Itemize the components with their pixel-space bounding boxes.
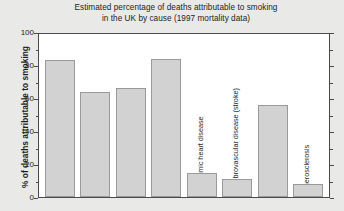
y-tick-minor-mark bbox=[330, 182, 333, 183]
y-tick-mark bbox=[330, 66, 334, 67]
y-tick-label: 100 bbox=[8, 28, 34, 37]
bar-slot: Aortic aneurysm bbox=[258, 34, 288, 197]
bar-slot: Cerebrovascular disease (stroke) bbox=[222, 34, 252, 197]
chart-title-line-1: Estimated percentage of deaths attributa… bbox=[26, 2, 326, 13]
y-axis-label: % of deaths attributable to smoking bbox=[20, 32, 30, 202]
bar[interactable] bbox=[80, 92, 110, 197]
y-tick-label: 40 bbox=[8, 127, 34, 136]
bar[interactable] bbox=[45, 60, 75, 197]
bar-slot: Lung cancer bbox=[45, 34, 75, 197]
bar[interactable] bbox=[116, 88, 146, 197]
y-tick-label: 60 bbox=[8, 94, 34, 103]
y-tick-minor-mark bbox=[330, 149, 333, 150]
bar[interactable] bbox=[151, 59, 181, 197]
y-tick-minor-mark bbox=[330, 50, 333, 51]
bar[interactable] bbox=[187, 173, 217, 197]
bar[interactable] bbox=[293, 184, 323, 197]
bar-slot: Upper respiratory cancer bbox=[80, 34, 110, 197]
y-tick-mark bbox=[330, 33, 334, 34]
bar-slot: Oesophageal cancer bbox=[116, 34, 146, 197]
bar-series: Lung cancerUpper respiratory cancerOesop… bbox=[39, 34, 329, 197]
y-tick-mark bbox=[330, 165, 334, 166]
bar-slot: Atherosclerosis bbox=[293, 34, 323, 197]
plot-area: Lung cancerUpper respiratory cancerOesop… bbox=[38, 33, 330, 198]
bar-slot: Chronic obstructive lung disease bbox=[151, 34, 181, 197]
y-tick-label: 80 bbox=[8, 61, 34, 70]
y-tick-label: 20 bbox=[8, 160, 34, 169]
chart-figure: Estimated percentage of deaths attributa… bbox=[0, 0, 344, 211]
y-tick-label: 0 bbox=[8, 193, 34, 202]
bar[interactable] bbox=[258, 105, 288, 197]
bar[interactable] bbox=[222, 179, 252, 197]
y-tick-minor-mark bbox=[330, 116, 333, 117]
y-tick-mark bbox=[330, 198, 334, 199]
chart-title: Estimated percentage of deaths attributa… bbox=[26, 2, 326, 24]
y-tick-minor-mark bbox=[330, 83, 333, 84]
chart-title-line-2: in the UK by cause (1997 mortality data) bbox=[26, 13, 326, 24]
bar-slot: Ischaemic heart disease bbox=[187, 34, 217, 197]
y-tick-mark bbox=[330, 99, 334, 100]
bar-label: Cerebrovascular disease (stroke) bbox=[231, 88, 240, 194]
y-tick-mark bbox=[34, 198, 38, 199]
y-tick-mark bbox=[330, 132, 334, 133]
